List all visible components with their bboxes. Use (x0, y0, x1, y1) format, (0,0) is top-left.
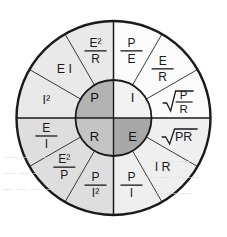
ring-segment-power-1: E I (57, 62, 72, 76)
hub-label-voltage: E (128, 129, 137, 144)
segment-numerator: E (159, 54, 167, 68)
segment-text: E I (57, 62, 72, 76)
hub-label-current: I (131, 90, 135, 105)
segment-denominator: I (45, 137, 48, 151)
segment-numerator: P (127, 170, 135, 184)
wheel-svg: PIREI²E IE²RPEERPRPRI RPIPI²E²PEI (0, 0, 227, 237)
segment-denominator: R (179, 103, 187, 115)
segment-text: I R (155, 160, 171, 174)
segment-denominator: I (130, 186, 133, 200)
hub-label-power: P (90, 90, 99, 105)
segment-numerator: P (180, 89, 188, 101)
segment-numerator: E (42, 121, 50, 135)
segment-denominator: R (158, 70, 167, 84)
segment-numerator: P (127, 36, 135, 50)
segment-numerator: P (92, 170, 100, 184)
ring-segment-voltage-1: I R (155, 160, 171, 174)
segment-denominator: P (60, 168, 68, 182)
segment-numerator: E² (90, 36, 102, 50)
ohms-law-wheel: PIREI²E IE²RPEERPRPRI RPIPI²E²PEI (0, 0, 227, 237)
segment-numerator: E² (58, 152, 70, 166)
hub-label-resistance: R (90, 129, 99, 144)
segment-denominator: E (127, 52, 135, 66)
segment-denominator: I² (92, 186, 99, 200)
segment-text: I² (43, 93, 51, 107)
segment-denominator: R (91, 52, 100, 66)
ring-segment-power-0: I² (43, 93, 51, 107)
segment-text: PR (175, 130, 192, 144)
